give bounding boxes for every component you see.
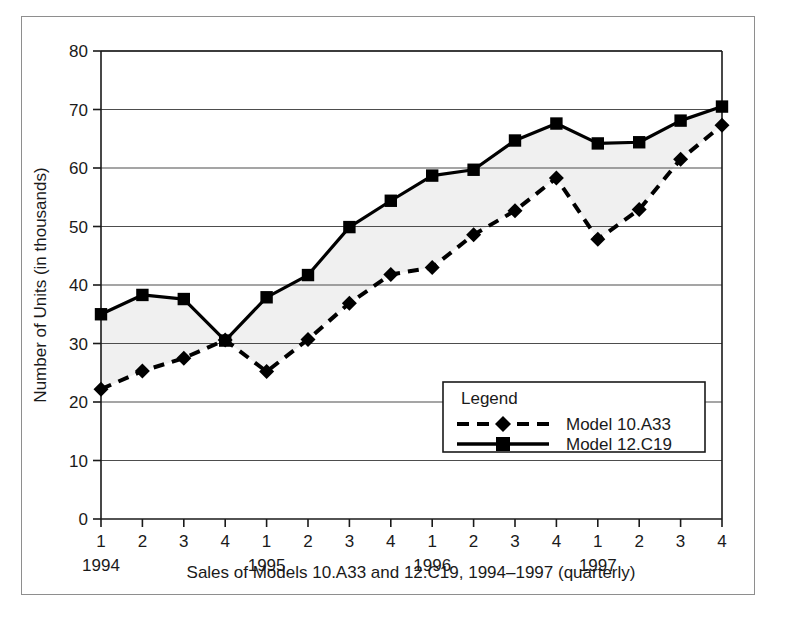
x-tick-label: 2 bbox=[138, 532, 147, 551]
square-icon bbox=[496, 437, 510, 451]
y-tick-label: 0 bbox=[79, 510, 88, 529]
x-tick-label: 2 bbox=[634, 532, 643, 551]
x-axis-tick-labels: 1234123412341234 bbox=[96, 532, 726, 551]
x-tick-label: 1 bbox=[96, 532, 105, 551]
x-tick-label: 1 bbox=[427, 532, 436, 551]
data-point-marker bbox=[219, 334, 231, 346]
data-point-marker bbox=[302, 269, 314, 281]
chart-svg: 01020304050607080 1234123412341234 19941… bbox=[0, 0, 785, 637]
y-tick-label: 40 bbox=[69, 276, 88, 295]
data-point-marker bbox=[343, 221, 355, 233]
y-tick-label: 20 bbox=[69, 393, 88, 412]
data-point-marker bbox=[95, 308, 107, 320]
data-point-marker bbox=[550, 117, 562, 129]
x-tick-label: 3 bbox=[676, 532, 685, 551]
y-tick-label: 30 bbox=[69, 335, 88, 354]
y-tick-label: 70 bbox=[69, 101, 88, 120]
sales-line-chart: 01020304050607080 1234123412341234 19941… bbox=[0, 0, 785, 637]
x-tick-label: 3 bbox=[345, 532, 354, 551]
x-axis-title: Sales of Models 10.A33 and 12.C19, 1994–… bbox=[187, 563, 636, 582]
data-point-marker bbox=[509, 134, 521, 146]
legend-label-model-10-a33: Model 10.A33 bbox=[566, 415, 671, 434]
x-tick-label: 4 bbox=[717, 532, 726, 551]
data-point-marker bbox=[136, 289, 148, 301]
legend-title: Legend bbox=[461, 389, 518, 408]
x-tick-label: 3 bbox=[510, 532, 519, 551]
data-point-marker bbox=[260, 291, 272, 303]
data-point-marker bbox=[467, 164, 479, 176]
y-tick-label: 50 bbox=[69, 218, 88, 237]
x-tick-label: 1 bbox=[593, 532, 602, 551]
x-tick-label: 4 bbox=[220, 532, 229, 551]
x-axis-ticks bbox=[101, 519, 722, 527]
data-point-marker bbox=[385, 195, 397, 207]
y-tick-label: 80 bbox=[69, 42, 88, 61]
series-band bbox=[101, 107, 722, 390]
data-point-marker bbox=[716, 100, 728, 112]
y-tick-label: 10 bbox=[69, 452, 88, 471]
legend: Legend Model 10.A33 Model 12.C19 bbox=[443, 382, 705, 454]
legend-label-model-12-c19: Model 12.C19 bbox=[566, 435, 672, 454]
data-point-marker bbox=[592, 137, 604, 149]
y-tick-label: 60 bbox=[69, 159, 88, 178]
x-tick-label: 3 bbox=[179, 532, 188, 551]
y-axis-title: Number of Units (in thousands) bbox=[31, 167, 50, 402]
x-tick-label: 2 bbox=[303, 532, 312, 551]
data-point-marker bbox=[426, 169, 438, 181]
data-point-marker bbox=[633, 136, 645, 148]
x-tick-label: 4 bbox=[552, 532, 561, 551]
x-tick-label: 1 bbox=[262, 532, 271, 551]
x-axis-year-label: 1994 bbox=[82, 556, 120, 575]
x-tick-label: 2 bbox=[469, 532, 478, 551]
data-point-marker bbox=[178, 293, 190, 305]
data-point-marker bbox=[674, 114, 686, 126]
y-axis-ticks: 01020304050607080 bbox=[69, 42, 101, 529]
x-tick-label: 4 bbox=[386, 532, 395, 551]
